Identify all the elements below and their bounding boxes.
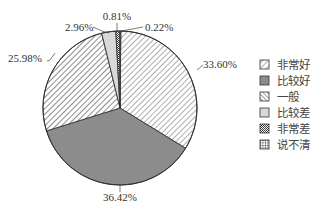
- data-label: 25.98%: [8, 52, 42, 64]
- legend: 非常好比较好一般比较差非常差说不清: [260, 58, 311, 152]
- pie-chart: 33.60%36.42%25.98%2.96%0.81%0.22% 非常好比较好…: [0, 0, 322, 213]
- label-leader-line: [47, 53, 55, 61]
- label-leader-line: [121, 27, 143, 31]
- legend-swatch: [260, 92, 269, 101]
- data-label: 2.96%: [65, 21, 93, 33]
- data-label: 0.81%: [103, 10, 131, 22]
- legend-label: 非常好: [277, 58, 311, 72]
- legend-label: 非常差: [277, 122, 310, 136]
- data-label: 36.42%: [103, 191, 137, 203]
- data-label: 0.22%: [145, 21, 173, 33]
- legend-label: 一般: [277, 90, 300, 104]
- legend-label: 说不清: [277, 138, 310, 152]
- legend-label: 比较好: [277, 74, 311, 88]
- pie-slices: [43, 31, 197, 185]
- legend-swatch: [260, 60, 269, 69]
- legend-swatch: [260, 76, 269, 85]
- legend-swatch: [260, 124, 269, 133]
- legend-swatch: [260, 140, 269, 149]
- legend-swatch: [260, 108, 269, 117]
- legend-label: 比较差: [277, 106, 310, 120]
- data-label: 33.60%: [203, 58, 237, 70]
- label-leader-line: [93, 27, 109, 33]
